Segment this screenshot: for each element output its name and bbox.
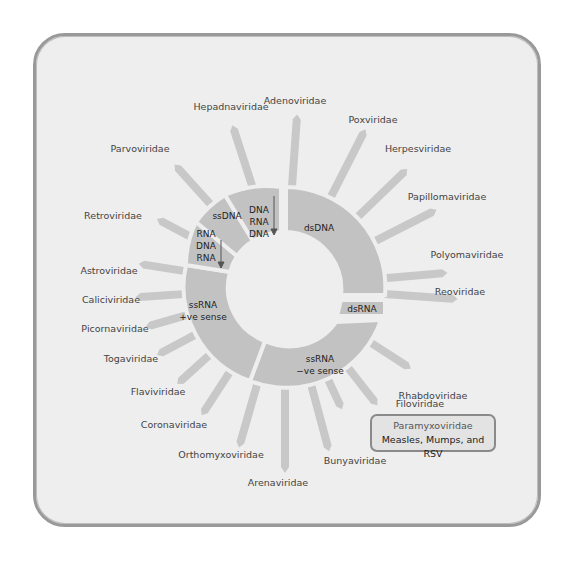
- svg-text:DNA: DNA: [196, 241, 217, 251]
- virus-wheel-diagram: dsDNA DNA RNA DNA ssDNA RNA DNA RNA ssRN…: [0, 0, 577, 562]
- svg-text:RNA: RNA: [249, 217, 269, 227]
- svg-text:Poxviridae: Poxviridae: [348, 114, 397, 125]
- svg-text:Papillomaviridae: Papillomaviridae: [408, 191, 487, 202]
- svg-text:ssRNA: ssRNA: [306, 354, 335, 364]
- svg-text:dsDNA: dsDNA: [304, 223, 335, 233]
- svg-text:Herpesviridae: Herpesviridae: [385, 143, 451, 154]
- spoke-adenoviridae: [288, 114, 301, 187]
- svg-text:dsRNA: dsRNA: [347, 304, 377, 314]
- svg-text:Coronaviridae: Coronaviridae: [141, 419, 207, 430]
- svg-text:Polyomaviridae: Polyomaviridae: [431, 249, 504, 260]
- svg-text:Retroviridae: Retroviridae: [84, 210, 142, 221]
- svg-text:Filoviridae: Filoviridae: [396, 398, 445, 409]
- svg-text:Orthomyxoviridae: Orthomyxoviridae: [178, 449, 264, 460]
- svg-text:Togaviridae: Togaviridae: [103, 353, 159, 364]
- svg-text:RNA: RNA: [196, 253, 216, 263]
- svg-text:DNA: DNA: [249, 229, 270, 239]
- callout-title: Paramyxoviridae: [372, 419, 494, 433]
- svg-text:ssRNA: ssRNA: [189, 300, 218, 310]
- svg-text:+ve sense: +ve sense: [179, 312, 227, 322]
- callout-subtitle: Measles, Mumps, and RSV: [372, 433, 494, 461]
- svg-text:Parvoviridae: Parvoviridae: [111, 143, 170, 154]
- svg-text:Adenoviridae: Adenoviridae: [264, 95, 327, 106]
- svg-text:Picornaviridae: Picornaviridae: [81, 323, 148, 334]
- svg-text:RNA: RNA: [196, 229, 216, 239]
- svg-text:−ve sense: −ve sense: [296, 366, 344, 376]
- svg-text:Caliciviridae: Caliciviridae: [82, 294, 140, 305]
- svg-text:Astroviridae: Astroviridae: [80, 265, 137, 276]
- paramyxoviridae-callout: Paramyxoviridae Measles, Mumps, and RSV: [370, 414, 496, 452]
- svg-text:Arenaviridae: Arenaviridae: [248, 477, 309, 488]
- svg-text:Hepadnaviridae: Hepadnaviridae: [193, 101, 268, 112]
- svg-text:Flaviviridae: Flaviviridae: [131, 386, 186, 397]
- svg-text:ssDNA: ssDNA: [212, 211, 242, 221]
- svg-text:DNA: DNA: [249, 205, 270, 215]
- svg-text:Reoviridae: Reoviridae: [435, 286, 485, 297]
